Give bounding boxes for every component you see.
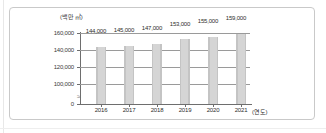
x-tick-label-2017: 2017 xyxy=(118,107,140,113)
bar-value-label-2019: 153,000 xyxy=(169,21,191,27)
y-axis-unit-label: (백만 ㎥) xyxy=(60,12,82,21)
y-axis-line xyxy=(80,32,81,105)
page-edge-left xyxy=(3,0,4,133)
y-tickmark-0 xyxy=(77,104,80,105)
x-axis-line xyxy=(80,104,252,105)
y-tick-label-100000: 100,000 xyxy=(54,81,74,87)
y-tickmark-160000 xyxy=(77,33,80,34)
bar-2019[interactable] xyxy=(180,39,190,104)
bar-2018[interactable] xyxy=(152,44,162,104)
bar-2017[interactable] xyxy=(124,46,134,104)
y-tick-label-0: 0 xyxy=(71,101,74,107)
x-tick-label-2018: 2018 xyxy=(146,107,168,113)
y-tick-label-140000: 140,000 xyxy=(54,47,74,53)
y-tick-label-160000: 160,000 xyxy=(54,30,74,36)
y-tickmark-140000 xyxy=(77,50,80,51)
chart-figure: (백만 ㎥) 160,000 140,000 120,000 100,000 0… xyxy=(0,0,326,133)
bar-value-label-2020: 155,000 xyxy=(197,18,219,24)
x-tick-label-2019: 2019 xyxy=(174,107,196,113)
x-tick-label-2021: 2021 xyxy=(230,107,252,113)
bar-value-label-2017: 145,000 xyxy=(113,27,135,33)
bar-value-label-2018: 147,000 xyxy=(141,25,163,31)
bar-2020[interactable] xyxy=(208,37,218,104)
bar-2016[interactable] xyxy=(96,47,106,104)
bar-2021[interactable] xyxy=(236,34,246,104)
x-tick-label-2020: 2020 xyxy=(202,107,224,113)
page-edge-bottom xyxy=(0,128,326,129)
y-tickmark-120000 xyxy=(77,67,80,68)
plot-area xyxy=(80,33,250,104)
bar-value-label-2016: 144,000 xyxy=(85,28,107,34)
y-tick-label-120000: 120,000 xyxy=(54,64,74,70)
x-axis-unit-label: (연도) xyxy=(252,107,267,116)
y-tickmark-100000 xyxy=(77,84,80,85)
bar-value-label-2021: 159,000 xyxy=(225,15,247,21)
x-tick-label-2016: 2016 xyxy=(90,107,112,113)
